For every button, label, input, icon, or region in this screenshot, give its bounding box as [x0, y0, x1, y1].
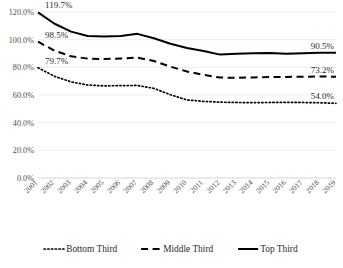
y-axis-tick-label: 40.0%: [13, 119, 34, 128]
data-point-labels: 119.7%98.5%79.7%90.5%73.2%54.0%: [45, 0, 335, 101]
y-axis-tick-label: 100.0%: [9, 36, 34, 45]
x-axis-tick-label: 2008: [138, 178, 155, 195]
x-axis-tick-label: 2016: [271, 178, 288, 195]
gridlines: [38, 12, 336, 178]
data-point-label: 119.7%: [45, 0, 73, 10]
data-point-label: 54.0%: [311, 91, 335, 101]
y-axis-tick-label: 80.0%: [13, 63, 34, 72]
data-point-label: 90.5%: [311, 41, 335, 51]
x-axis-tick-label: 2017: [287, 178, 304, 195]
x-axis-tick-label: 2004: [72, 178, 89, 195]
line-chart: 0.0%20.0%40.0%60.0%80.0%100.0%120.0% 200…: [0, 0, 343, 268]
y-axis-tick-labels: 0.0%20.0%40.0%60.0%80.0%100.0%120.0%: [9, 8, 34, 183]
x-axis-tick-label: 2006: [105, 178, 122, 195]
x-axis-tick-label: 2012: [204, 178, 221, 195]
x-axis-tick-label: 2007: [122, 178, 139, 195]
x-axis-tick-labels: 2001200220032004200520062007200820092010…: [22, 178, 337, 195]
series-lines: [38, 12, 336, 103]
y-axis-tick-label: 20.0%: [13, 146, 34, 155]
chart-legend: Bottom ThirdMiddle ThirdTop Third: [44, 244, 298, 254]
y-axis-tick-label: 120.0%: [9, 8, 34, 17]
x-axis-tick-label: 2002: [39, 178, 56, 195]
data-point-label: 73.2%: [311, 65, 335, 75]
x-axis-tick-label: 2014: [238, 178, 255, 195]
x-axis-tick-label: 2018: [304, 178, 321, 195]
series-line-bottom-third: [38, 68, 336, 104]
x-axis-tick-label: 2015: [254, 178, 271, 195]
x-axis-tick-label: 2009: [155, 178, 172, 195]
legend-label-middle-third: Middle Third: [163, 244, 213, 254]
data-point-label: 98.5%: [45, 30, 69, 40]
legend-label-bottom-third: Bottom Third: [66, 244, 117, 254]
x-axis-tick-label: 2010: [171, 178, 188, 195]
data-point-label: 79.7%: [45, 56, 69, 66]
y-axis-tick-label: 60.0%: [13, 91, 34, 100]
x-axis-tick-label: 2011: [188, 178, 205, 195]
x-axis-tick-label: 2013: [221, 178, 238, 195]
legend-label-top-third: Top Third: [260, 244, 298, 254]
series-line-top-third: [38, 12, 336, 54]
x-axis-tick-label: 2003: [55, 178, 72, 195]
chart-canvas: 0.0%20.0%40.0%60.0%80.0%100.0%120.0% 200…: [0, 0, 343, 268]
x-axis-tick-label: 2005: [89, 178, 106, 195]
x-axis-tick-label: 2019: [320, 178, 337, 195]
